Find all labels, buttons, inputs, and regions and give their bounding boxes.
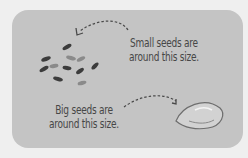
- big-seed-icon: [176, 103, 223, 129]
- arrow-to-small-seeds-icon: [80, 21, 128, 31]
- big-seeds-label-line2: around this size.: [44, 117, 124, 131]
- big-seeds-label-line1: Big seeds are: [44, 103, 124, 117]
- illustration: [0, 0, 248, 158]
- small-seeds-label-line1: Small seeds are: [124, 36, 204, 50]
- small-seeds-label-line2: around this size.: [124, 50, 204, 64]
- small-seeds-icon: [39, 43, 100, 86]
- arrowhead-icon: [172, 99, 176, 104]
- big-seeds-label: Big seeds are around this size.: [44, 103, 124, 131]
- arrow-to-big-seed-icon: [124, 96, 176, 107]
- small-seeds-label: Small seeds are around this size.: [124, 36, 204, 64]
